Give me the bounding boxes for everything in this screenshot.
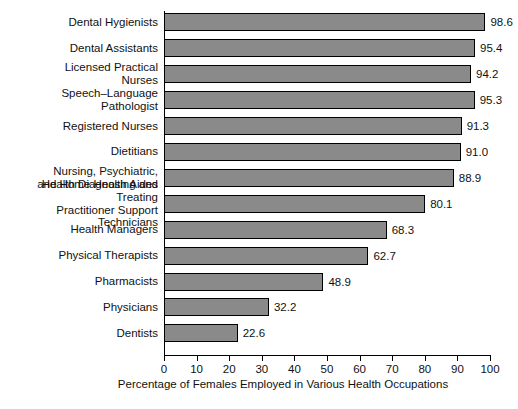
bar <box>164 39 475 57</box>
category-label: Physical Therapists <box>6 249 158 262</box>
plot-area: Dental HygienistsDental AssistantsLicens… <box>0 0 518 409</box>
category-label: Dietitians <box>6 145 158 158</box>
bar-row: 94.2 <box>164 65 518 83</box>
x-tick <box>164 355 165 361</box>
x-tick <box>327 355 328 361</box>
bar-chart-figure: Dental HygienistsDental AssistantsLicens… <box>0 0 518 409</box>
x-tick <box>360 355 361 361</box>
category-label: Registered Nurses <box>6 120 158 133</box>
bar <box>164 221 387 239</box>
x-tick <box>262 355 263 361</box>
x-tick <box>457 355 458 361</box>
bar <box>164 247 368 265</box>
bar-value-label: 80.1 <box>430 196 452 212</box>
bar-row: 91.3 <box>164 117 518 135</box>
bar <box>164 324 238 342</box>
category-label: Licensed Practical Nurses <box>6 61 158 86</box>
bar <box>164 143 461 161</box>
category-label: Physicians <box>6 301 158 314</box>
x-axis-title-text: Percentage of Females Employed in Variou… <box>118 378 448 390</box>
category-label-wrap: Dental Assistants <box>6 39 158 57</box>
x-tick <box>425 355 426 361</box>
category-label: Dentists <box>6 327 158 340</box>
category-label-wrap: Health Diagnosing and Treating Practitio… <box>6 195 158 213</box>
bar-value-label: 48.9 <box>328 274 350 290</box>
x-tick-label: 100 <box>470 362 510 376</box>
bar <box>164 117 462 135</box>
bar-row: 88.9 <box>164 169 514 187</box>
bar-row: 32.2 <box>164 298 329 316</box>
category-label-wrap: Physical Therapists <box>6 247 158 265</box>
x-tick <box>197 355 198 361</box>
bar-value-label: 94.2 <box>476 66 498 82</box>
bar-row: 98.6 <box>164 13 518 31</box>
category-label: Speech–Language Pathologist <box>6 87 158 112</box>
category-label-wrap: Physicians <box>6 298 158 316</box>
bar-value-label: 95.3 <box>480 92 502 108</box>
bar-row: 80.1 <box>164 195 485 213</box>
category-label-wrap: Licensed Practical Nurses <box>6 65 158 83</box>
bar-value-label: 88.9 <box>459 170 481 186</box>
bar-row: 48.9 <box>164 273 383 291</box>
bar <box>164 65 471 83</box>
bar-value-label: 62.7 <box>373 248 395 264</box>
x-axis-title: Percentage of Females Employed in Variou… <box>0 378 518 390</box>
bar-row: 62.7 <box>164 247 428 265</box>
y-axis-line <box>164 11 165 356</box>
category-label-wrap: Speech–Language Pathologist <box>6 91 158 109</box>
x-tick <box>392 355 393 361</box>
bar-value-label: 91.3 <box>467 118 489 134</box>
category-label: Dental Hygienists <box>6 16 158 29</box>
bar-row: 95.3 <box>164 91 518 109</box>
bar-row: 95.4 <box>164 39 518 57</box>
category-label-wrap: Dentists <box>6 324 158 342</box>
bar <box>164 13 485 31</box>
category-label: Pharmacists <box>6 275 158 288</box>
x-tick <box>490 355 491 361</box>
bar-value-label: 32.2 <box>274 299 296 315</box>
category-label: Dental Assistants <box>6 42 158 55</box>
bar-row: 91.0 <box>164 143 518 161</box>
category-label: Health Managers <box>6 223 158 236</box>
bar <box>164 169 454 187</box>
bar <box>164 91 475 109</box>
category-label-wrap: Dietitians <box>6 143 158 161</box>
bar-value-label: 68.3 <box>392 222 414 238</box>
bar-row: 22.6 <box>164 324 298 342</box>
category-label-wrap: Pharmacists <box>6 273 158 291</box>
category-label-wrap: Health Managers <box>6 221 158 239</box>
bar-value-label: 95.4 <box>480 40 502 56</box>
x-tick <box>294 355 295 361</box>
bar <box>164 273 323 291</box>
x-tick <box>229 355 230 361</box>
bar-value-label: 22.6 <box>243 325 265 341</box>
bar <box>164 298 269 316</box>
bar-value-label: 98.6 <box>490 14 512 30</box>
category-label-wrap: Registered Nurses <box>6 117 158 135</box>
category-label-wrap: Dental Hygienists <box>6 13 158 31</box>
bar-row: 68.3 <box>164 221 447 239</box>
bar <box>164 195 425 213</box>
bar-value-label: 91.0 <box>466 144 488 160</box>
